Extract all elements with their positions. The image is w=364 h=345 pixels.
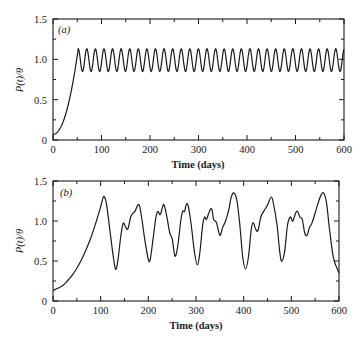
x-axis-title-a: Time (days) — [171, 159, 225, 171]
data-line-a — [53, 49, 344, 135]
x-tick-label: 500 — [283, 305, 299, 316]
y-tick-labels-b: 00.51.01.5 — [34, 176, 47, 307]
plot-frame-b — [53, 181, 339, 301]
x-tick-label: 100 — [93, 305, 109, 316]
x-tick-label: 300 — [188, 305, 204, 316]
data-line-b — [53, 193, 339, 291]
y-tick-label: 1.5 — [34, 14, 47, 25]
figure: 0100200300400500600 00.51.01.5 (a) P(t)/… — [0, 0, 364, 345]
panel-label-b: (b) — [60, 187, 73, 199]
x-tick-label: 0 — [50, 144, 55, 155]
plot-frame-a — [53, 19, 344, 140]
panel-b: 0100200300400500600 00.51.01.5 (b) P(t)/… — [14, 176, 347, 332]
x-tick-labels-b: 0100200300400500600 — [50, 305, 347, 316]
x-tick-label: 200 — [142, 144, 158, 155]
ticks-b — [53, 181, 339, 301]
x-tick-label: 600 — [331, 305, 347, 316]
x-tick-label: 600 — [336, 144, 352, 155]
x-tick-label: 400 — [236, 305, 252, 316]
x-tick-label: 500 — [288, 144, 304, 155]
panel-a: 0100200300400500600 00.51.01.5 (a) P(t)/… — [14, 14, 352, 171]
x-tick-label: 300 — [191, 144, 207, 155]
y-axis-title-a: P(t)/θ — [14, 68, 26, 93]
x-tick-label: 200 — [140, 305, 156, 316]
y-axis-title-b: P(t)/θ — [14, 229, 26, 254]
y-tick-label: 0 — [42, 296, 47, 307]
x-tick-label: 0 — [50, 305, 55, 316]
y-tick-label: 1.0 — [34, 216, 47, 227]
y-tick-label: 0.5 — [34, 95, 47, 106]
y-tick-labels-a: 00.51.01.5 — [34, 14, 47, 146]
y-tick-label: 0.5 — [34, 256, 47, 267]
x-tick-labels-a: 0100200300400500600 — [50, 144, 352, 155]
ticks-a — [53, 19, 344, 140]
y-tick-label: 0 — [42, 135, 47, 146]
x-axis-title-b: Time (days) — [169, 320, 223, 332]
panel-label-a: (a) — [58, 24, 71, 36]
x-tick-label: 100 — [94, 144, 110, 155]
y-tick-label: 1.5 — [34, 176, 47, 187]
x-tick-label: 400 — [239, 144, 255, 155]
y-tick-label: 1.0 — [34, 54, 47, 65]
